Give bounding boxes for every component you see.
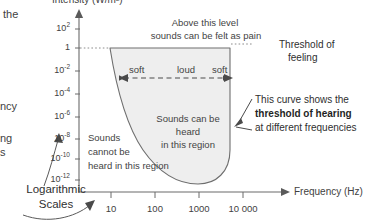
threshold-of-hearing-callout-line2: threshold of hearing (255, 108, 352, 121)
sounds-not-heard-label-line1: Sounds (88, 132, 120, 143)
y-tick-base-2: 10 (54, 65, 64, 75)
threshold-hearing-leader-arrow (234, 99, 252, 130)
y-tick-base-3: 10 (54, 88, 64, 98)
y-tick-label-5: 10-8 (36, 133, 70, 144)
x-axis-ticks (111, 192, 243, 198)
x-tick-label-2: 1000 (181, 203, 217, 214)
above-this-level-label-line1: Above this level (140, 17, 270, 28)
y-tick-exp-7: -12 (61, 172, 70, 179)
y-tick-base-0: 10 (56, 23, 66, 33)
sounds-heard-label-line2: heard (146, 126, 230, 137)
y-tick-base-6: 10 (51, 153, 61, 163)
y-tick-label-3: 10-4 (36, 88, 70, 99)
y-tick-exp-0: 2 (66, 21, 70, 28)
x-tick-label-1: 100 (139, 203, 171, 214)
soft-right-label: soft (212, 64, 227, 75)
sounds-not-heard-label-line3: heard in this region (88, 160, 169, 171)
logarithmic-scales-label-line1: Logarithmic (2, 183, 110, 197)
y-tick-label-6: 10-10 (34, 153, 70, 164)
y-tick-label-4: 10-6 (36, 111, 70, 122)
sound-intensity-frequency-diagram: Intensity (W/m²) 102 1 10-2 10-4 10-6 10… (0, 0, 389, 223)
y-tick-exp-2: -2 (64, 63, 70, 70)
threshold-of-feeling-callout-line1: Threshold of (279, 39, 335, 52)
sounds-heard-label-line1: Sounds can be (146, 113, 230, 124)
loud-label: loud (177, 64, 195, 75)
threshold-of-hearing-callout-line1: This curve shows the (255, 94, 349, 107)
y-tick-exp-4: -6 (64, 109, 70, 116)
y-tick-base-1: 1 (65, 42, 70, 52)
threshold-of-feeling-callout-line2: feeling (288, 52, 317, 65)
y-tick-exp-6: -10 (61, 151, 70, 158)
x-axis-arrowhead (281, 188, 290, 196)
y-tick-label-2: 10-2 (36, 65, 70, 76)
sounds-not-heard-label-line2: cannot be (88, 146, 130, 157)
y-axis-title: Intensity (W/m²) (52, 0, 123, 6)
logarithmic-scales-label-line2: Scales (2, 198, 110, 212)
soft-left-label: soft (129, 64, 144, 75)
left-fragment-the: the (3, 8, 18, 21)
threshold-of-hearing-callout-line3: at different frequencies (255, 122, 357, 135)
left-fragment-ng: ng (0, 132, 12, 145)
y-tick-exp-5: -8 (64, 131, 70, 138)
x-axis-title: Frequency (Hz) (294, 186, 363, 198)
y-tick-label-1: 1 (36, 42, 70, 53)
y-tick-label-0: 102 (36, 23, 70, 34)
left-fragment-ncy: ncy (0, 100, 17, 113)
sounds-heard-label-line3: in this region (146, 139, 230, 150)
y-tick-exp-3: -4 (64, 86, 70, 93)
above-this-level-label-line2: sounds can be felt as pain (120, 30, 292, 41)
x-tick-label-3: 10 000 (221, 203, 265, 214)
left-fragment-s: s (0, 146, 6, 159)
y-tick-base-5: 10 (54, 133, 64, 143)
y-axis-arrowhead (75, 9, 83, 18)
y-tick-base-4: 10 (54, 111, 64, 121)
